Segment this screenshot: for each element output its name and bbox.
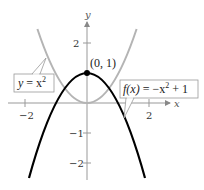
eq-exponent: 2 (42, 75, 46, 84)
callout-y-equals-x-squared: y = x2 (14, 58, 54, 92)
callout-f-of-x: f(x) = −x2 + 1 (120, 80, 198, 118)
x-axis-label: x (174, 98, 180, 109)
eq-equals-x: = x (23, 76, 42, 90)
y-axis-label: y (84, 9, 91, 20)
y-tick-label-2: 2 (73, 38, 79, 49)
eq-neg-x: = −x (140, 82, 166, 96)
vertex-point-label: (0, 1) (90, 56, 116, 70)
svg-text:y = x2: y = x2 (17, 75, 46, 90)
y-tick-label-neg1: −1 (69, 128, 84, 139)
x-tick-label-2: 2 (146, 110, 152, 121)
x-tick-label-neg2: −2 (19, 110, 34, 121)
eq-f-of-x: f(x) (123, 82, 140, 96)
vertex-point (84, 70, 90, 76)
eq-plus-one: + 1 (169, 82, 188, 96)
svg-text:f(x) = −x2 + 1: f(x) = −x2 + 1 (123, 81, 188, 96)
y-tick-label-neg2: −2 (69, 158, 84, 169)
function-graph: −2 2 2 −1 −2 y x (0, 1) y = x2 f(x) = −x… (0, 0, 204, 190)
